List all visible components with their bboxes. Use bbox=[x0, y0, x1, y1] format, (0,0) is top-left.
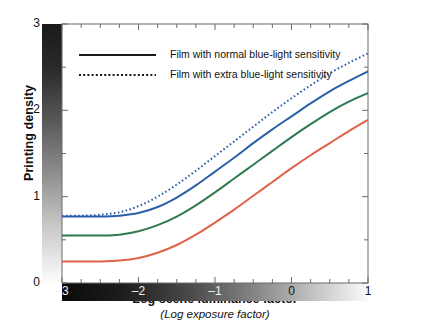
x-tick-label: 1 bbox=[355, 284, 381, 298]
legend-label-extra: Film with extra blue-light sensitivity bbox=[170, 68, 332, 80]
curve-red-record bbox=[62, 120, 368, 262]
x-tick-label: 0 bbox=[279, 284, 305, 298]
y-axis-gradient-bar bbox=[42, 24, 62, 283]
data-curves bbox=[62, 53, 368, 261]
y-tick-label: 1 bbox=[14, 189, 40, 203]
x-tick-label: –3 bbox=[49, 284, 75, 298]
x-tick-label: –1 bbox=[202, 284, 228, 298]
y-tick-label: 0 bbox=[14, 275, 40, 289]
legend-label-normal: Film with normal blue-light sensitivity bbox=[170, 48, 340, 60]
axis-ticks bbox=[62, 24, 368, 283]
chart-figure: Printing density Log scene luminance fac… bbox=[0, 0, 427, 330]
y-tick-label: 3 bbox=[14, 16, 40, 30]
curve-green-record bbox=[62, 93, 368, 236]
curve-normal-blue-light-sensitivity-blue bbox=[62, 71, 368, 216]
y-tick-label: 2 bbox=[14, 102, 40, 116]
legend-swatches bbox=[79, 55, 156, 75]
plot-frame bbox=[62, 24, 368, 283]
x-tick-label: –2 bbox=[126, 284, 152, 298]
